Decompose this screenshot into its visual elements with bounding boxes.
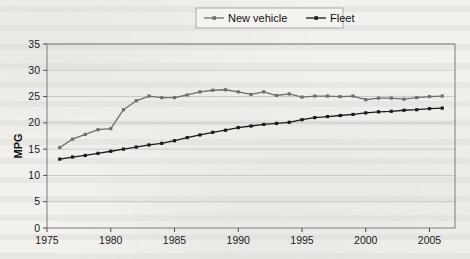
data-point — [288, 92, 291, 95]
plot-border — [47, 44, 455, 228]
data-point — [402, 109, 405, 112]
y-tick-label: 25 — [28, 90, 40, 102]
legend-marker — [314, 16, 318, 20]
data-point — [135, 99, 138, 102]
y-axis-title: MPG — [12, 133, 24, 158]
chart-legend: New vehicleFleet — [196, 8, 354, 28]
chart-canvas: 05101520253035 1975198019851990199520002… — [0, 0, 470, 259]
data-point — [186, 136, 189, 139]
y-tick-label: 30 — [28, 64, 40, 76]
data-point — [186, 93, 189, 96]
y-tick-label: 5 — [34, 195, 40, 207]
data-point — [109, 150, 112, 153]
data-point — [173, 139, 176, 142]
y-tick-label: 35 — [28, 38, 40, 50]
series-line — [60, 108, 443, 159]
gridlines — [47, 44, 455, 202]
data-point — [339, 114, 342, 117]
data-point — [96, 128, 99, 131]
series-line — [60, 90, 443, 148]
y-tick-label: 0 — [34, 222, 40, 234]
data-point — [300, 118, 303, 121]
x-tick-label: 1990 — [227, 234, 251, 246]
y-tick-label: 15 — [28, 143, 40, 155]
data-point — [224, 88, 227, 91]
legend-label: New vehicle — [228, 12, 287, 24]
data-point — [122, 148, 125, 151]
x-tick-label: 2000 — [354, 234, 378, 246]
data-point — [262, 90, 265, 93]
data-point — [275, 122, 278, 125]
legend-marker — [212, 16, 216, 20]
plot-frame — [47, 44, 455, 228]
data-point — [313, 94, 316, 97]
data-point — [428, 107, 431, 110]
data-point — [351, 113, 354, 116]
data-point — [71, 138, 74, 141]
y-tick-label: 20 — [28, 116, 40, 128]
x-tick-label: 1995 — [290, 234, 314, 246]
data-point — [198, 133, 201, 136]
data-point — [71, 155, 74, 158]
y-axis-ticks: 05101520253035 — [28, 38, 47, 234]
data-point — [147, 94, 150, 97]
data-point — [428, 95, 431, 98]
data-point — [96, 152, 99, 155]
mpg-line-chart: 05101520253035 1975198019851990199520002… — [0, 0, 470, 259]
data-point — [237, 126, 240, 129]
data-point — [109, 127, 112, 130]
data-point — [58, 146, 61, 149]
data-point — [58, 158, 61, 161]
data-point — [224, 129, 227, 132]
data-point — [249, 93, 252, 96]
data-point — [326, 94, 329, 97]
data-point — [402, 98, 405, 101]
x-tick-label: 1985 — [163, 234, 187, 246]
series-fleet — [58, 107, 444, 161]
data-point — [211, 131, 214, 134]
data-point — [160, 142, 163, 145]
y-tick-label: 10 — [28, 169, 40, 181]
x-tick-label: 1980 — [99, 234, 123, 246]
data-point — [351, 94, 354, 97]
data-point — [364, 98, 367, 101]
data-point — [415, 108, 418, 111]
data-point — [390, 97, 393, 100]
data-point — [160, 96, 163, 99]
x-tick-label: 1975 — [35, 234, 59, 246]
data-point — [364, 111, 367, 114]
data-point — [249, 124, 252, 127]
data-point — [300, 96, 303, 99]
data-point — [122, 108, 125, 111]
data-point — [339, 95, 342, 98]
data-point — [84, 133, 87, 136]
data-point — [173, 96, 176, 99]
data-point — [147, 143, 150, 146]
data-series — [58, 88, 444, 161]
data-point — [288, 121, 291, 124]
x-tick-label: 2005 — [418, 234, 442, 246]
x-axis-ticks: 1975198019851990199520002005 — [35, 228, 441, 246]
series-new-vehicle — [58, 88, 444, 149]
data-point — [377, 97, 380, 100]
data-point — [262, 123, 265, 126]
data-point — [441, 107, 444, 110]
data-point — [441, 94, 444, 97]
data-point — [377, 110, 380, 113]
data-point — [211, 89, 214, 92]
data-point — [313, 116, 316, 119]
data-point — [275, 94, 278, 97]
data-point — [135, 145, 138, 148]
data-point — [415, 96, 418, 99]
legend-label: Fleet — [330, 12, 354, 24]
data-point — [198, 90, 201, 93]
data-point — [84, 154, 87, 157]
data-point — [326, 115, 329, 118]
data-point — [390, 110, 393, 113]
data-point — [237, 90, 240, 93]
